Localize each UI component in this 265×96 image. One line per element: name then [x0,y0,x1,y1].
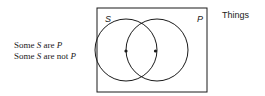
universe-label: Things [222,10,249,20]
set-p-label: P [197,14,203,24]
existence-mark-s-only [124,49,127,52]
set-s-label: S [105,14,111,24]
universe-rectangle [97,8,207,92]
existence-mark-s-and-p [154,49,157,52]
